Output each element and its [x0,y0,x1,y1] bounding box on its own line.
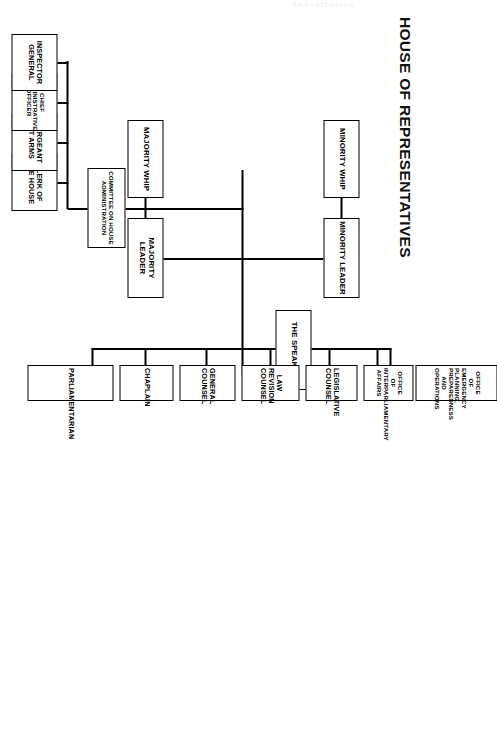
connector-bus-to-inspector-general [56,62,68,64]
node-parliamentarian[interactable]: PARLIAMENTARIAN [27,365,113,401]
node-minority-whip[interactable]: MINORITY WHIP [323,120,359,198]
connector-committee-riser [67,208,87,210]
connector-bus-to-legislative-counsel [328,348,330,366]
connector-committee-bus [66,61,68,209]
connector-bus-to-law-revision-counsel [269,348,271,366]
node-legislative-counsel[interactable]: LEGISLATIVE COUNSEL [305,365,357,401]
connector-bus-to-chaplain [144,348,146,366]
connector-spine-to-committee [123,208,243,210]
node-office-of-interparliamentary-affairs[interactable]: OFFICE OF INTERPARLIAMENTARY AFFAIRS [363,365,413,401]
connector-bus-to-cao [56,102,68,104]
node-majority-whip[interactable]: MAJORITY WHIP [127,120,163,198]
node-inspector-general[interactable]: INSPECTOR GENERAL [11,34,57,91]
connector-officer-bus-upper [241,348,391,350]
connector-speaker-to-officer-bus [91,348,243,350]
node-law-revision-counsel[interactable]: LAW REVISION COUNSEL [241,365,299,401]
node-committee-on-house-administration[interactable]: COMMITTEE ON HOUSE ADMINISTRATION [87,168,125,248]
connector-bus-to-sergeant [56,142,68,144]
node-general-counsel[interactable]: GENERAL COUNSEL [179,365,235,401]
connector-bus-to-emergency-planning [389,348,391,366]
connector-minority-leader-to-whip [340,197,342,219]
page-title: HOUSE OF REPRESENTATIVES [395,17,413,258]
node-office-of-emergency-planning[interactable]: OFFICE OF EMERGENCY PLANNING, PREPAREDNE… [415,365,497,401]
node-chaplain[interactable]: CHAPLAIN [119,365,173,401]
connector-spine-to-minority-leader [242,258,323,260]
node-minority-leader[interactable]: MINORITY LEADER [323,218,359,298]
connector-speaker-spine-left [241,170,243,350]
connector-spine-to-majority-leader [161,258,243,260]
connector-bus-to-general-counsel [205,348,207,366]
node-majority-leader[interactable]: MAJORITY LEADER [127,218,163,298]
connector-bus-to-parliamentarian [91,348,93,366]
connector-bus-to-clerk [56,182,68,184]
connector-bus-to-interparliamentary-affairs [376,348,378,366]
